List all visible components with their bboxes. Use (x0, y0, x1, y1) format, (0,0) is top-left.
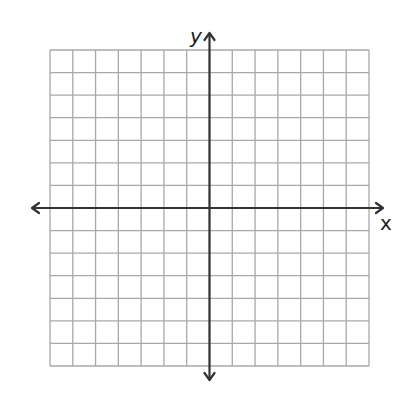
coordinate-plane: x y (0, 0, 416, 407)
axes (32, 33, 383, 380)
x-axis-label: x (380, 211, 392, 235)
y-axis-label: y (189, 24, 203, 48)
